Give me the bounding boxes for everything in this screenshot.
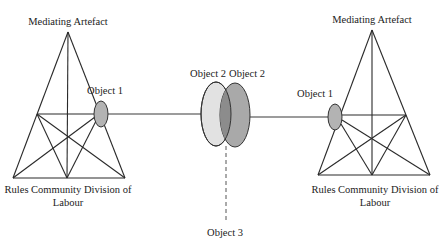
left-object1-ellipse <box>94 101 108 127</box>
right-base-label-line1: Rules Community Division of <box>312 184 439 195</box>
object3-label: Object 3 <box>207 227 243 238</box>
right-base-label-line2: Labour <box>360 197 391 208</box>
right-triangle-edge <box>318 30 372 175</box>
right-object1-label: Object 1 <box>297 88 333 99</box>
left-inner-edge <box>67 121 96 178</box>
center-right-object2-label: Object 2 <box>229 68 265 79</box>
left-base-label-line1: Rules Community Division of <box>5 184 132 195</box>
left-inner-edge <box>37 114 125 178</box>
right-inner-edge <box>341 124 372 175</box>
activity-theory-diagram: Mediating Artefact Object 1 Rules Commun… <box>0 0 439 246</box>
left-object1-label: Object 1 <box>87 85 123 96</box>
left-apex-label: Mediating Artefact <box>28 16 108 27</box>
left-triangle-edge <box>13 32 68 178</box>
right-inner-edge <box>372 115 406 175</box>
right-apex-label: Mediating Artefact <box>332 14 412 25</box>
left-triangle-vertical <box>67 32 68 178</box>
left-base-label-line2: Labour <box>53 197 84 208</box>
left-inner-edge <box>37 114 67 178</box>
center-left-object2-label: Object 2 <box>190 68 226 79</box>
center-objects: Object 2 Object 2 Object 3 <box>190 68 265 238</box>
right-object1-ellipse <box>328 104 342 130</box>
right-activity-system: Mediating Artefact Object 1 Rules Commun… <box>297 14 439 208</box>
right-triangle-edge <box>372 30 430 175</box>
left-activity-system: Mediating Artefact Object 1 Rules Commun… <box>5 16 132 208</box>
